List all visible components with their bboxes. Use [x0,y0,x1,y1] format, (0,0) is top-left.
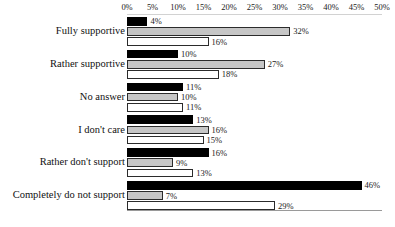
bar-row: 15% [127,136,382,145]
category-label: Rather don't support [40,146,127,179]
bar-value-label: 4% [150,17,161,26]
bar-value-label: 13% [196,168,212,177]
bar-value-label: 7% [166,191,177,200]
plot-area: Fully supportive4%32%16%Rather supportiv… [127,14,382,211]
bar-series-2 [127,27,290,36]
bar-row: 13% [127,115,382,124]
bar-series-1 [127,115,193,124]
bar-row: 9% [127,158,382,167]
bar-series-3 [127,201,275,210]
x-axis-tick-20: 20% [221,1,236,13]
category-group: No answer11%10%11% [127,81,382,114]
bar-chart: 0%5%10%15%20%25%30%35%40%45%50% Fully su… [0,0,395,227]
x-axis-tick-40: 40% [323,1,338,13]
x-axis-tick-5: 5% [147,1,158,13]
bar-row: 46% [127,181,382,190]
x-axis-tick-30: 30% [272,1,287,13]
x-axis-tick-50: 50% [374,1,389,13]
bar-value-label: 10% [181,93,197,102]
bar-value-label: 18% [222,70,238,79]
category-label: Completely do not support [13,179,127,212]
bar-series-1 [127,17,147,26]
bar-value-label: 13% [196,115,212,124]
category-label: Rather supportive [50,48,127,81]
bar-row: 13% [127,169,382,178]
bar-row: 11% [127,83,382,92]
bar-series-2 [127,93,178,102]
bar-value-label: 46% [365,181,381,190]
bar-row: 18% [127,70,382,79]
category-group: Rather don't support16%9%13% [127,146,382,179]
bar-value-label: 15% [207,136,223,145]
category-label: No answer [80,81,127,114]
bar-row: 32% [127,27,382,36]
x-axis-tick-45: 45% [349,1,364,13]
bar-series-3 [127,70,219,79]
x-axis-tick-15: 15% [196,1,211,13]
bar-row: 16% [127,148,382,157]
bar-series-2 [127,158,173,167]
bar-value-label: 9% [176,158,187,167]
bar-series-1 [127,181,362,190]
category-group: Fully supportive4%32%16% [127,15,382,48]
x-axis-tick-35: 35% [298,1,313,13]
bar-value-label: 29% [278,201,294,210]
bar-series-1 [127,50,178,59]
x-axis-tick-10: 10% [170,1,185,13]
bar-row: 4% [127,17,382,26]
bar-series-2 [127,60,265,69]
bar-row: 10% [127,50,382,59]
category-label: Fully supportive [56,15,127,48]
bar-value-label: 11% [186,103,201,112]
category-group: I don't care13%16%15% [127,114,382,147]
bar-row: 27% [127,60,382,69]
bar-series-1 [127,83,183,92]
bar-value-label: 32% [293,27,309,36]
bar-value-label: 27% [268,60,284,69]
bar-row: 7% [127,191,382,200]
bar-row: 16% [127,126,382,135]
bar-series-3 [127,169,193,178]
bar-value-label: 16% [212,37,228,46]
bar-value-label: 16% [212,148,228,157]
bar-series-2 [127,191,163,200]
bar-value-label: 16% [212,125,228,134]
bar-series-3 [127,103,183,112]
category-label: I don't care [78,114,127,147]
bar-series-3 [127,136,204,145]
x-axis-tick-25: 25% [247,1,262,13]
bar-value-label: 11% [186,82,201,91]
bar-row: 10% [127,93,382,102]
x-axis-tick-0: 0% [121,1,132,13]
category-group: Completely do not support46%7%29% [127,179,382,212]
bar-value-label: 10% [181,50,197,59]
bar-series-1 [127,148,209,157]
x-axis-tick-labels: 0%5%10%15%20%25%30%35%40%45%50% [127,1,382,14]
bar-row: 29% [127,201,382,210]
bar-row: 16% [127,37,382,46]
bar-series-3 [127,37,209,46]
bar-series-2 [127,126,209,135]
category-group: Rather supportive10%27%18% [127,48,382,81]
bar-row: 11% [127,103,382,112]
